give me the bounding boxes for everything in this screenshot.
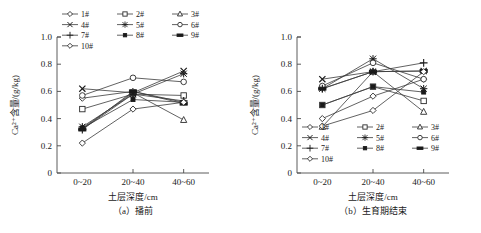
- figure-root: 00.20.40.60.81.00~2020~4040~60Ca²⁺含量/(g/…: [0, 0, 481, 233]
- panel-b: 00.20.40.60.81.00~2020~4040~60Ca²⁺含量/(g/…: [240, 0, 480, 233]
- marker-asterisk: [362, 134, 368, 140]
- y-tick-label: 0.2: [41, 141, 52, 151]
- legend-item-9: 9#: [172, 31, 199, 40]
- marker-small-filled-square: [320, 103, 324, 107]
- x-tick-label: 20~40: [122, 177, 145, 187]
- legend-label: 10#: [81, 42, 93, 51]
- marker-diamond: [130, 106, 136, 112]
- x-tick-label: 20~40: [362, 177, 385, 187]
- legend-label: 8#: [136, 31, 144, 40]
- legend-label: 2#: [376, 123, 384, 132]
- series-8: [80, 98, 185, 131]
- y-tick-label: 0.8: [281, 59, 293, 69]
- axes: 00.20.40.60.81.00~2020~4040~60: [41, 32, 209, 187]
- marker-diamond: [67, 43, 72, 48]
- marker-filled-bar: [319, 87, 326, 90]
- y-tick-label: 0.4: [41, 114, 53, 124]
- x-tick-label: 0~20: [73, 177, 92, 187]
- marker-filled-bar: [129, 90, 136, 93]
- x-tick-label: 40~60: [172, 177, 195, 187]
- marker-diamond: [307, 156, 312, 161]
- legend-label: 6#: [191, 21, 199, 30]
- marker-square: [421, 98, 426, 103]
- marker-filled-bar: [79, 128, 86, 131]
- y-tick-label: 0: [288, 168, 293, 178]
- marker-small-filled-square: [422, 90, 426, 94]
- marker-small-filled-square: [371, 85, 375, 89]
- y-tick-label: 0.8: [41, 59, 53, 69]
- marker-triangle: [181, 117, 187, 123]
- marker-diamond: [79, 140, 85, 146]
- marker-small-filled-square: [123, 34, 126, 37]
- marker-diamond: [319, 116, 325, 122]
- legend-item-3: 3#: [412, 123, 439, 132]
- legend-item-4: 4#: [302, 134, 329, 143]
- x-axis-title: 土层深度/cm: [348, 191, 398, 202]
- legend-label: 1#: [81, 10, 89, 19]
- chart-panel-a: 00.20.40.60.81.00~2020~4040~60Ca²⁺含量/(g/…: [0, 0, 240, 233]
- legend-item-3: 3#: [172, 10, 199, 19]
- y-tick-label: 0.6: [41, 86, 53, 96]
- marker-plus: [420, 59, 428, 67]
- legend-item-6: 6#: [172, 21, 199, 30]
- legend-label: 7#: [81, 31, 89, 40]
- legend-item-1: 1#: [62, 10, 89, 19]
- marker-diamond: [370, 93, 376, 99]
- marker-small-filled-square: [131, 98, 135, 102]
- legend-label: 4#: [321, 134, 329, 143]
- legend: 1#2#3#4#5#6#7#8#9#10#: [302, 123, 439, 164]
- y-axis-title: Ca²⁺含量/(g/kg): [249, 75, 260, 135]
- panel-caption: （b）生育期结束: [339, 205, 407, 216]
- marker-circle: [130, 75, 136, 81]
- marker-circle: [421, 76, 427, 82]
- marker-circle: [80, 93, 86, 99]
- marker-circle: [370, 60, 376, 66]
- y-axis-title: Ca²⁺含量/(g/kg): [9, 75, 20, 135]
- legend-item-10: 10#: [62, 42, 93, 51]
- marker-diamond: [67, 11, 72, 16]
- legend-label: 7#: [321, 144, 329, 153]
- marker-triangle: [417, 124, 422, 129]
- legend-item-8: 8#: [357, 144, 384, 153]
- legend-item-4: 4#: [62, 21, 89, 30]
- y-tick-label: 0: [48, 168, 53, 178]
- y-tick-label: 1.0: [41, 32, 53, 42]
- y-tick-label: 0.2: [281, 141, 292, 151]
- marker-asterisk: [180, 70, 187, 77]
- marker-filled-bar: [417, 147, 423, 149]
- marker-square: [80, 106, 85, 111]
- marker-plus: [307, 145, 314, 152]
- legend-item-2: 2#: [357, 123, 384, 132]
- legend-item-7: 7#: [302, 144, 329, 153]
- marker-triangle: [421, 108, 427, 114]
- legend-item-2: 2#: [117, 10, 144, 19]
- legend-label: 9#: [431, 144, 439, 153]
- legend-item-8: 8#: [117, 31, 144, 40]
- legend-label: 9#: [191, 31, 199, 40]
- legend-label: 5#: [136, 21, 144, 30]
- marker-square: [123, 12, 127, 16]
- marker-diamond: [307, 124, 312, 129]
- legend-item-7: 7#: [62, 31, 89, 40]
- series-1: [319, 76, 427, 122]
- legend-label: 4#: [81, 21, 89, 30]
- legend-label: 6#: [431, 134, 439, 143]
- series-group: [78, 68, 187, 146]
- marker-circle: [178, 22, 182, 26]
- marker-small-filled-square: [363, 147, 366, 150]
- panel-a: 00.20.40.60.81.00~2020~4040~60Ca²⁺含量/(g/…: [0, 0, 240, 233]
- legend-item-5: 5#: [117, 21, 144, 30]
- legend-item-6: 6#: [412, 134, 439, 143]
- y-tick-label: 1.0: [281, 32, 293, 42]
- marker-asterisk: [122, 21, 128, 27]
- legend-label: 2#: [136, 10, 144, 19]
- panel-caption: （a）播前: [113, 205, 153, 216]
- legend-label: 3#: [191, 10, 199, 19]
- marker-circle: [181, 79, 187, 85]
- chart-panel-b: 00.20.40.60.81.00~2020~4040~60Ca²⁺含量/(g/…: [240, 0, 480, 233]
- marker-circle: [418, 135, 422, 139]
- legend-label: 5#: [376, 134, 384, 143]
- legend-item-10: 10#: [302, 155, 333, 164]
- marker-triangle: [177, 11, 182, 16]
- marker-filled-bar: [177, 34, 183, 36]
